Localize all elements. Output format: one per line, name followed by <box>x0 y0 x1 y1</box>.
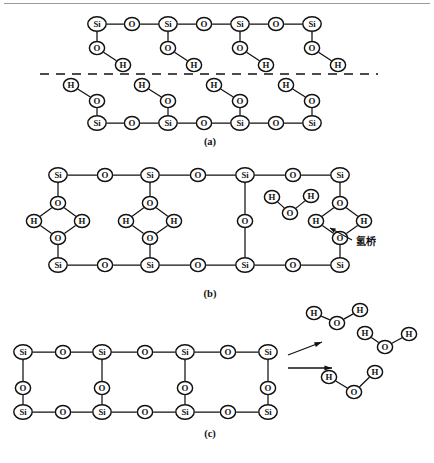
atom-o: O <box>285 168 300 181</box>
atom-h: H <box>356 214 371 227</box>
atom-h: H <box>352 303 367 316</box>
atom-o: O <box>260 381 275 394</box>
atom-si: Si <box>141 168 159 182</box>
atom-h: H <box>306 306 321 319</box>
atom-h: H <box>367 365 382 378</box>
atom-si: Si <box>259 405 277 419</box>
atom-o: O <box>160 41 175 54</box>
bond-o-h <box>293 89 305 96</box>
atom-si: Si <box>303 116 321 130</box>
atom-h: H <box>206 78 221 91</box>
silica-dehydration-figure: SiSiSiSiOOOOHOHOHOHSiSiSiSiOOOOHOHOHOHSi… <box>0 0 434 463</box>
atom-o: O <box>304 94 319 107</box>
bond-h-o <box>41 226 52 234</box>
bond-o-h <box>221 89 233 96</box>
bond-h-o <box>322 316 330 319</box>
atom-o: O <box>137 345 152 358</box>
atom-si: Si <box>14 405 32 419</box>
atom-si: Si <box>176 345 194 359</box>
atom-o: O <box>50 196 65 209</box>
diagram-canvas: SiSiSiSiOOOOHOHOHOHSiSiSiSiOOOOHOHOHOHSi… <box>0 0 434 463</box>
atom-o: O <box>268 17 283 30</box>
atom-h: H <box>26 214 41 227</box>
bond-h-o <box>278 202 284 207</box>
bond-o-h <box>392 338 401 343</box>
atoms-layer: SiSiSiSiOOOOHOHOHOHSiSiSiSiOOOOHOHOHOHSi… <box>14 17 417 419</box>
atom-si: Si <box>176 405 194 419</box>
atom-si: Si <box>231 17 249 31</box>
annotation-layer: 氢桥 <box>288 228 377 371</box>
atom-si: Si <box>88 17 106 31</box>
atom-h: H <box>401 327 416 340</box>
atom-o: O <box>124 116 139 129</box>
atom-o: O <box>190 258 205 271</box>
atom-si: Si <box>141 258 159 272</box>
atom-si: Si <box>88 116 106 130</box>
atom-h: H <box>357 326 372 339</box>
atom-si: Si <box>93 345 111 359</box>
bond-h-o <box>65 226 76 234</box>
bond-o-h <box>247 53 259 61</box>
bond-o-h <box>347 208 358 216</box>
atom-o: O <box>160 94 175 107</box>
atom-o: O <box>94 381 109 394</box>
atom-h: H <box>278 78 293 91</box>
atom-o: O <box>377 340 392 353</box>
atom-si: Si <box>93 405 111 419</box>
bond-h-o <box>347 226 358 234</box>
atom-h: H <box>308 214 323 227</box>
atom-si: Si <box>159 116 177 130</box>
atom-h: H <box>115 58 130 71</box>
atom-si: Si <box>231 116 249 130</box>
panel-caption-c: (c) <box>204 428 216 440</box>
bond-o-h <box>149 89 161 96</box>
atom-o: O <box>15 381 30 394</box>
bond-o-h <box>104 53 116 61</box>
bond-o-h <box>133 208 144 216</box>
atom-o: O <box>346 385 361 398</box>
atom-h: H <box>258 58 273 71</box>
atom-o: O <box>196 116 211 129</box>
atom-si: Si <box>49 168 67 182</box>
atom-o: O <box>329 316 344 329</box>
atom-o: O <box>282 206 297 219</box>
atom-o: O <box>50 231 65 244</box>
atom-o: O <box>89 94 104 107</box>
atom-h: H <box>321 370 336 383</box>
atom-si: Si <box>331 258 349 272</box>
atom-o: O <box>232 94 247 107</box>
atom-o: O <box>177 381 192 394</box>
atom-o: O <box>89 41 104 54</box>
atom-si: Si <box>303 17 321 31</box>
atom-si: Si <box>259 345 277 359</box>
bond-h-o <box>336 381 347 387</box>
atom-o: O <box>304 41 319 54</box>
bond-o-h <box>344 314 353 319</box>
hydrogen-bridge-annotation-label: 氢桥 <box>356 235 377 247</box>
atom-h: H <box>186 58 201 71</box>
bond-o-h <box>323 208 334 216</box>
atom-h: H <box>264 190 279 203</box>
atom-o: O <box>220 405 235 418</box>
atom-o: O <box>97 168 112 181</box>
atom-o: O <box>124 17 139 30</box>
atom-h: H <box>63 78 78 91</box>
bond-o-h <box>41 208 52 216</box>
atom-si: Si <box>331 168 349 182</box>
atom-o: O <box>137 405 152 418</box>
atom-o: O <box>55 345 70 358</box>
atom-h: H <box>166 214 181 227</box>
atom-o: O <box>142 196 157 209</box>
atom-o: O <box>196 17 211 30</box>
atom-si: Si <box>159 17 177 31</box>
bond-h-o <box>157 226 168 234</box>
bond-o-h <box>157 208 168 216</box>
bond-o-h <box>296 201 304 208</box>
atom-o: O <box>268 116 283 129</box>
bond-h-o <box>133 226 144 234</box>
atom-o: O <box>237 214 252 227</box>
atom-h: H <box>134 78 149 91</box>
bond-o-h <box>360 378 369 387</box>
atom-o: O <box>142 231 157 244</box>
atom-si: Si <box>236 258 254 272</box>
